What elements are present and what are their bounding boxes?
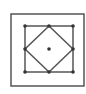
point-mid-left xyxy=(23,47,27,51)
geometry-diagram xyxy=(0,0,86,94)
point-center xyxy=(47,47,51,51)
point-top-mid xyxy=(47,24,51,28)
point-top-right xyxy=(71,24,75,28)
point-top-left xyxy=(23,24,27,28)
point-bottom-mid xyxy=(47,70,51,74)
point-bottom-left xyxy=(23,70,27,74)
vertex-points xyxy=(23,24,75,74)
point-bottom-right xyxy=(71,70,75,74)
point-mid-right xyxy=(71,47,75,51)
